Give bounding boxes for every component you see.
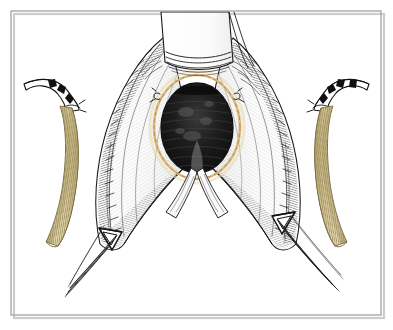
surgical-illustration bbox=[0, 0, 393, 330]
illustration-canvas bbox=[0, 0, 393, 330]
